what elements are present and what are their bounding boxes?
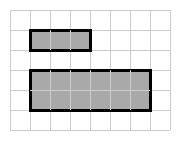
shapes-layer bbox=[0, 0, 188, 143]
small-rectangle bbox=[30, 30, 90, 50]
figure-canvas bbox=[0, 0, 188, 143]
